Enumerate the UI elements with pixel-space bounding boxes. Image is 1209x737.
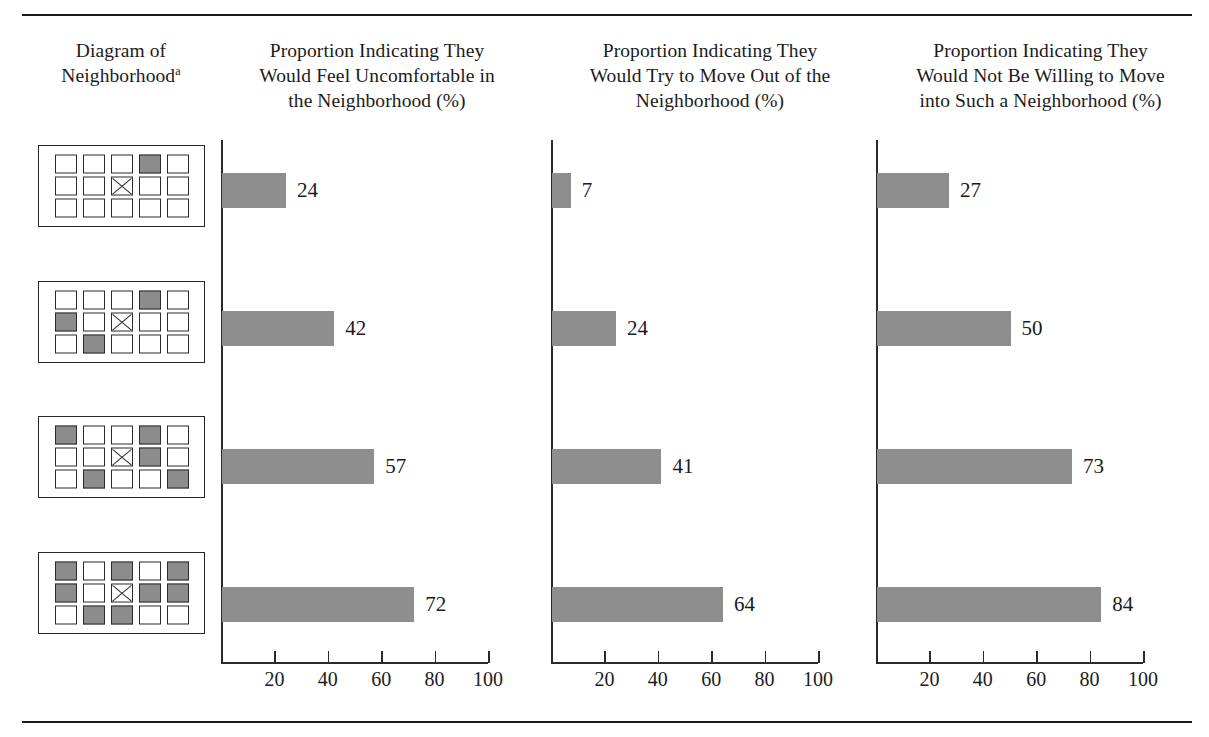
header-col1-line-2: Would Feel Uncomfortable in — [228, 63, 526, 88]
bar — [222, 311, 334, 346]
house-cell-empty — [167, 448, 189, 467]
x-axis-tick-label: 20 — [919, 668, 939, 691]
bar-value-label: 50 — [1022, 311, 1043, 346]
header-column-not-willing-to-move-in: Proportion Indicating They Would Not Be … — [888, 38, 1193, 113]
x-axis-tick — [983, 651, 985, 663]
house-cell-filled — [55, 562, 77, 581]
bar — [222, 449, 374, 484]
bar-value-label: 73 — [1083, 449, 1104, 484]
neighborhood-diagram — [38, 281, 205, 363]
header-col1-line-1: Proportion Indicating They — [228, 38, 526, 63]
house-cell-empty — [139, 470, 161, 489]
house-cell-empty — [55, 155, 77, 174]
house-cell-filled — [139, 584, 161, 603]
house-cell-empty — [167, 291, 189, 310]
house-cell-empty — [83, 313, 105, 332]
header-diagram-of-neighborhood: Diagram of Neighborhooda — [20, 38, 222, 88]
header-col3-line-3: into Such a Neighborhood (%) — [888, 88, 1193, 113]
x-axis-tick — [1143, 651, 1145, 663]
x-axis-tick-label: 80 — [1080, 668, 1100, 691]
neighborhood-grid — [55, 155, 189, 218]
header-col2-line-3: Neighborhood (%) — [560, 88, 860, 113]
house-cell-filled — [139, 448, 161, 467]
footnote-marker-a: a — [175, 64, 180, 78]
x-axis-tick — [1036, 651, 1038, 663]
x-axis-tick — [274, 651, 276, 663]
house-cell-filled — [139, 291, 161, 310]
bar-value-label: 64 — [734, 587, 755, 622]
x-axis-tick-label: 100 — [473, 668, 503, 691]
x-axis-tick-label: 100 — [1128, 668, 1158, 691]
header-diagram-line-2: Neighborhooda — [20, 63, 222, 88]
x-axis-tick-label: 40 — [973, 668, 993, 691]
house-cell-empty — [55, 291, 77, 310]
column-headers: Diagram of Neighborhooda Proportion Indi… — [0, 38, 1209, 118]
house-cell-filled — [111, 562, 133, 581]
house-cell-empty — [111, 291, 133, 310]
bar-value-label: 42 — [345, 311, 366, 346]
bar — [877, 173, 949, 208]
x-axis-tick — [488, 651, 490, 663]
house-cell-empty — [139, 562, 161, 581]
bar-value-label: 27 — [960, 173, 981, 208]
house-cell-empty — [55, 335, 77, 354]
neighborhood-diagram — [38, 145, 205, 227]
header-col2-line-1: Proportion Indicating They — [560, 38, 860, 63]
x-axis-tick-label: 20 — [594, 668, 614, 691]
header-diagram-line-2-text: Neighborhood — [61, 65, 175, 86]
x-axis-tick-label: 80 — [425, 668, 445, 691]
chart-panel-move-out: 204060801007244164 — [551, 140, 851, 685]
x-axis-tick — [1090, 651, 1092, 663]
top-rule — [22, 14, 1192, 16]
y-axis-line — [221, 140, 223, 664]
house-cell-filled — [139, 155, 161, 174]
house-cell-empty — [55, 470, 77, 489]
neighborhood-grid — [55, 562, 189, 625]
house-cell-respondent-x — [111, 177, 133, 196]
neighborhood-diagram — [38, 416, 205, 498]
bar-value-label: 41 — [672, 449, 693, 484]
header-col3-line-2: Would Not Be Willing to Move — [888, 63, 1193, 88]
bar-value-label: 24 — [297, 173, 318, 208]
bar — [552, 311, 616, 346]
header-col3-line-1: Proportion Indicating They — [888, 38, 1193, 63]
header-col2-line-2: Would Try to Move Out of the — [560, 63, 860, 88]
house-cell-filled — [139, 426, 161, 445]
house-cell-empty — [139, 606, 161, 625]
house-cell-empty — [83, 448, 105, 467]
bar-value-label: 72 — [425, 587, 446, 622]
bar — [877, 449, 1072, 484]
house-cell-empty — [167, 177, 189, 196]
bar-value-label: 57 — [385, 449, 406, 484]
x-axis-tick — [929, 651, 931, 663]
house-cell-filled — [167, 584, 189, 603]
neighborhood-diagram — [38, 552, 205, 634]
house-cell-empty — [83, 291, 105, 310]
house-cell-empty — [83, 584, 105, 603]
house-cell-filled — [167, 470, 189, 489]
house-cell-filled — [55, 584, 77, 603]
house-cell-empty — [111, 335, 133, 354]
x-axis-tick-label: 40 — [648, 668, 668, 691]
house-cell-empty — [167, 199, 189, 218]
chart-panel-not-willing: 2040608010027507384 — [876, 140, 1181, 685]
header-diagram-line-1: Diagram of — [20, 38, 222, 63]
x-axis-tick — [711, 651, 713, 663]
house-cell-empty — [83, 199, 105, 218]
house-cell-empty — [167, 606, 189, 625]
x-axis-tick — [435, 651, 437, 663]
house-cell-empty — [55, 448, 77, 467]
neighborhood-grid — [55, 426, 189, 489]
x-axis-tick — [765, 651, 767, 663]
house-cell-filled — [167, 562, 189, 581]
house-cell-empty — [167, 335, 189, 354]
neighborhood-grid — [55, 291, 189, 354]
house-cell-empty — [83, 177, 105, 196]
house-cell-respondent-x — [111, 448, 133, 467]
house-cell-empty — [55, 177, 77, 196]
x-axis-tick-label: 60 — [1026, 668, 1046, 691]
x-axis-tick-label: 40 — [318, 668, 338, 691]
house-cell-empty — [83, 155, 105, 174]
x-axis-tick — [658, 651, 660, 663]
bar — [877, 587, 1101, 622]
